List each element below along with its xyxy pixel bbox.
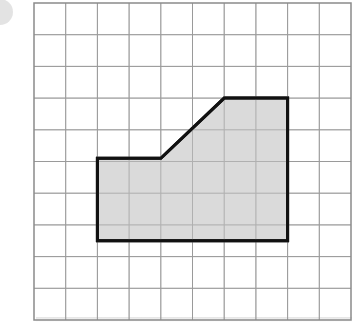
grid-lines-overlay: [34, 3, 351, 320]
diagram-canvas: [0, 0, 353, 329]
grid-diagram: [0, 0, 353, 329]
